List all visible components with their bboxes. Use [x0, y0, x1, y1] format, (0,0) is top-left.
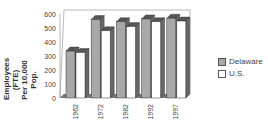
svg-text:400: 400	[44, 39, 56, 46]
svg-text:1982: 1982	[122, 104, 129, 120]
svg-text:1972: 1972	[97, 104, 104, 120]
svg-text:0: 0	[52, 95, 56, 102]
legend-label: U.S.	[229, 68, 245, 80]
svg-text:1962: 1962	[72, 104, 79, 120]
svg-text:100: 100	[44, 81, 56, 88]
legend-label: Delaware	[229, 56, 263, 68]
legend-item-us: U.S.	[218, 68, 263, 80]
legend: Delaware U.S.	[218, 56, 263, 80]
svg-text:200: 200	[44, 67, 56, 74]
legend-swatch-us	[218, 70, 226, 78]
svg-text:300: 300	[44, 53, 56, 60]
legend-swatch-delaware	[218, 58, 226, 66]
y-axis-label: Employees (FTE) Per 10,000 Pop.	[2, 60, 38, 100]
svg-text:1992: 1992	[147, 104, 154, 120]
legend-item-delaware: Delaware	[218, 56, 263, 68]
y-axis-label-line1: Employees (FTE)	[2, 60, 20, 100]
y-axis-label-line2: Per 10,000 Pop.	[20, 60, 38, 100]
svg-text:1997: 1997	[172, 104, 179, 120]
svg-text:500: 500	[44, 25, 56, 32]
svg-text:600: 600	[44, 11, 56, 18]
